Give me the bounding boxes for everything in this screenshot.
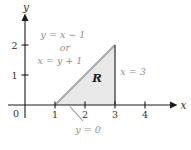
hypotenuse-equation-line3: x = y + 1: [38, 55, 83, 66]
origin-label: 0: [13, 108, 19, 119]
y-axis-arrowhead-icon: [22, 14, 29, 22]
right-boundary-equation: x = 3: [120, 66, 145, 77]
x-axis-label: x: [181, 99, 187, 111]
x-tick-label-3: 3: [112, 109, 118, 120]
region-label: R: [91, 71, 102, 85]
x-tick-label-2: 2: [82, 109, 88, 120]
y-tick-label-2: 2: [11, 40, 17, 51]
y-tick-label-1: 1: [11, 70, 17, 81]
x-tick-label-4: 4: [142, 109, 148, 120]
bottom-boundary-equation: y = 0: [74, 124, 100, 135]
hypotenuse-equation-line1: y = x − 1: [40, 29, 86, 40]
math-region-figure: 0 1 2 3 4 1 2 x y y = x − 1 or x = y + 1…: [0, 0, 191, 150]
x-tick-label-1: 1: [52, 109, 58, 120]
x-axis-arrowhead-icon: [170, 102, 178, 109]
hypotenuse-equation-line2: or: [60, 42, 72, 53]
region-diagram-canvas: 0 1 2 3 4 1 2 x y y = x − 1 or x = y + 1…: [0, 0, 191, 150]
y-axis-label: y: [22, 1, 30, 13]
